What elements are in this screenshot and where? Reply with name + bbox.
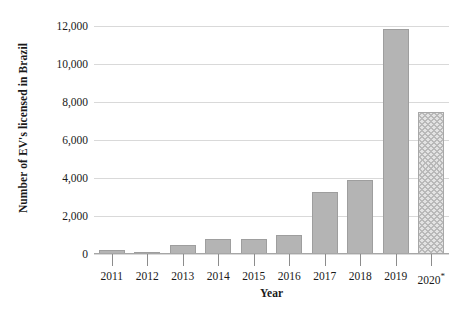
y-axis-tick-labels: 02,0004,0006,0008,00010,00012,000 [26, 0, 88, 316]
bar-2017 [312, 192, 338, 254]
x-axis-title: Year [94, 287, 449, 299]
x-axis-tick [147, 254, 148, 266]
bar-2018 [347, 180, 373, 254]
bar-2015 [241, 239, 267, 254]
projection-asterisk: * [441, 271, 446, 281]
plot-area [94, 26, 449, 254]
x-axis-tick [325, 254, 326, 266]
bar-2020 [418, 112, 444, 255]
x-axis-tick [183, 254, 184, 266]
bars-layer [94, 26, 449, 254]
bar-2016 [276, 235, 302, 254]
y-axis-tick-label: 8,000 [26, 96, 88, 108]
x-axis-tick-labels: 2011201220132014201520162017201820192020… [94, 269, 459, 289]
y-axis-tick-label: 0 [26, 248, 88, 260]
bar-2019 [383, 29, 409, 254]
y-axis-tick-label: 12,000 [26, 20, 88, 32]
x-axis-ticks [94, 254, 449, 268]
x-axis-tick [254, 254, 255, 266]
x-axis-tick-label: 2020* [409, 269, 453, 288]
x-axis-tick [218, 254, 219, 266]
x-axis-tick [396, 254, 397, 266]
bar-2014 [205, 239, 231, 254]
x-axis-tick [360, 254, 361, 266]
y-axis-tick-label: 2,000 [26, 210, 88, 222]
bar-chart-figure: Number of EV's licensed in Brazil 02,000… [0, 0, 459, 316]
y-axis-tick-label: 4,000 [26, 172, 88, 184]
x-axis-tick [112, 254, 113, 266]
x-axis-tick [431, 254, 432, 266]
y-axis-tick-label: 6,000 [26, 134, 88, 146]
y-axis-tick-label: 10,000 [26, 58, 88, 70]
x-axis-tick [289, 254, 290, 266]
